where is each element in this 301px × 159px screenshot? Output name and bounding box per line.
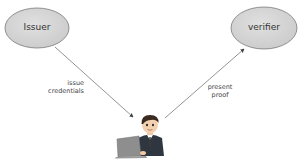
issuer-label: Issuer bbox=[5, 22, 69, 32]
person-at-laptop-icon bbox=[115, 115, 164, 159]
issue-credentials-label: issue credentials bbox=[44, 79, 84, 95]
present-proof-line2: proof bbox=[204, 91, 236, 99]
diagram-canvas: Issuer verifier issue credentials presen… bbox=[0, 0, 301, 159]
present-proof-line1: present bbox=[204, 83, 236, 91]
present-proof-label: present proof bbox=[204, 83, 236, 99]
verifier-label: verifier bbox=[231, 22, 297, 32]
issue-credentials-line1: issue bbox=[44, 79, 84, 87]
issue-credentials-line2: credentials bbox=[44, 87, 84, 95]
